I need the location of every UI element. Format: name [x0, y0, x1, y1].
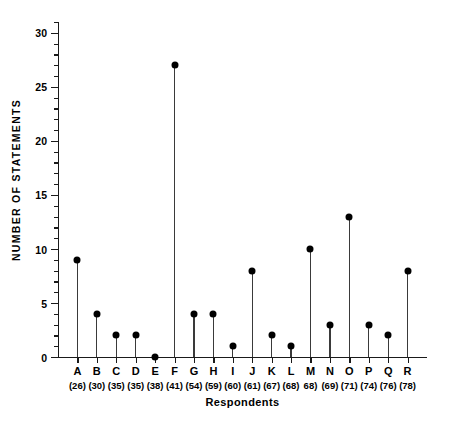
- data-point-marker[interactable]: [210, 310, 217, 317]
- y-tick-minor: [54, 44, 59, 45]
- data-point-marker[interactable]: [268, 332, 275, 339]
- x-category-letter: M: [304, 365, 318, 378]
- y-tick-label: 10: [35, 244, 47, 256]
- y-tick-major: 15: [51, 195, 58, 196]
- y-tick-minor: [54, 314, 59, 315]
- data-point-marker[interactable]: [288, 343, 295, 350]
- x-category-letter: L: [283, 365, 300, 378]
- data-point-marker[interactable]: [229, 343, 236, 350]
- data-point-marker[interactable]: [307, 245, 314, 252]
- y-axis-title: NUMBER OF STATEMENTS: [8, 15, 24, 345]
- x-tick: [116, 357, 117, 363]
- data-point-marker[interactable]: [365, 321, 372, 328]
- y-tick-minor: [54, 335, 59, 336]
- y-tick-minor: [54, 98, 59, 99]
- y-tick-major: 0: [51, 357, 58, 358]
- x-category-id: (54): [185, 379, 202, 392]
- x-category-label: M68): [304, 365, 318, 392]
- x-category-letter: K: [263, 365, 280, 378]
- data-point-marker[interactable]: [249, 267, 256, 274]
- x-category-letter: I: [224, 365, 241, 378]
- data-point-marker[interactable]: [113, 332, 120, 339]
- x-category-id: (30): [88, 379, 105, 392]
- y-tick-minor: [54, 325, 59, 326]
- x-category-label: K(67): [263, 365, 280, 392]
- x-tick: [349, 357, 350, 363]
- y-tick-minor: [54, 76, 59, 77]
- y-tick-minor: [54, 206, 59, 207]
- y-tick-minor: [54, 108, 59, 109]
- data-point-marker[interactable]: [74, 256, 81, 263]
- x-category-letter: B: [88, 365, 105, 378]
- x-tick: [77, 357, 78, 363]
- y-tick-minor: [54, 260, 59, 261]
- x-category-letter: O: [341, 365, 358, 378]
- x-category-label: C(35): [108, 365, 125, 392]
- y-tick-minor: [54, 281, 59, 282]
- stem-line: [96, 314, 97, 357]
- x-category-id: (78): [399, 379, 416, 392]
- y-tick-minor: [54, 184, 59, 185]
- y-tick-minor: [54, 227, 59, 228]
- y-tick-minor: [54, 130, 59, 131]
- y-tick-minor: [54, 292, 59, 293]
- data-point-marker[interactable]: [190, 310, 197, 317]
- x-category-label: D(35): [127, 365, 144, 392]
- x-category-label: N(69): [321, 365, 338, 392]
- y-tick-minor: [54, 119, 59, 120]
- x-category-id: 68): [304, 379, 318, 392]
- y-tick-minor: [54, 162, 59, 163]
- data-point-marker[interactable]: [404, 267, 411, 274]
- x-category-letter: P: [360, 365, 377, 378]
- y-tick-minor: [54, 65, 59, 66]
- x-category-label: H(59): [205, 365, 222, 392]
- stem-line: [252, 271, 253, 357]
- x-category-label: F(41): [166, 365, 183, 392]
- y-tick-minor: [54, 54, 59, 55]
- y-tick-major: 5: [51, 303, 58, 304]
- x-tick: [291, 357, 292, 363]
- x-category-label: A(26): [69, 365, 86, 392]
- x-tick: [330, 357, 331, 363]
- data-point-marker[interactable]: [132, 332, 139, 339]
- data-point-marker[interactable]: [93, 310, 100, 317]
- x-tick: [136, 357, 137, 363]
- stem-line: [368, 325, 369, 357]
- x-category-label: B(30): [88, 365, 105, 392]
- y-tick-label: 15: [35, 189, 47, 201]
- plot-area: 051015202530 A(26)B(30)C(35)D(35)E(38)F(…: [58, 22, 427, 357]
- x-tick: [213, 357, 214, 363]
- x-category-id: (61): [244, 379, 261, 392]
- x-tick: [194, 357, 195, 363]
- x-category-id: (67): [263, 379, 280, 392]
- x-category-label: G(54): [185, 365, 202, 392]
- x-category-letter: A: [69, 365, 86, 378]
- y-tick-label: 30: [35, 27, 47, 39]
- chart-figure: NUMBER OF STATEMENTS 051015202530 A(26)B…: [0, 0, 449, 421]
- x-category-id: (74): [360, 379, 377, 392]
- stem-line: [213, 314, 214, 357]
- x-category-letter: Q: [380, 365, 397, 378]
- x-axis-title: Respondents: [58, 396, 427, 408]
- y-tick-major: 20: [51, 141, 58, 142]
- data-point-marker[interactable]: [152, 354, 159, 361]
- x-category-label: P(74): [360, 365, 377, 392]
- x-tick: [272, 357, 273, 363]
- data-point-marker[interactable]: [326, 321, 333, 328]
- data-point-marker[interactable]: [171, 62, 178, 69]
- data-point-marker[interactable]: [346, 213, 353, 220]
- y-tick-label: 20: [35, 135, 47, 147]
- y-axis-line: [58, 22, 59, 357]
- data-point-marker[interactable]: [385, 332, 392, 339]
- x-tick: [97, 357, 98, 363]
- stem-line: [174, 65, 175, 357]
- stem-line: [407, 271, 408, 357]
- x-category-letter: N: [321, 365, 338, 378]
- y-tick-minor: [54, 152, 59, 153]
- x-category-label: E(38): [147, 365, 164, 392]
- x-tick: [310, 357, 311, 363]
- x-category-id: (35): [108, 379, 125, 392]
- x-category-label: J(61): [244, 365, 261, 392]
- stem-line: [77, 260, 78, 357]
- x-tick: [388, 357, 389, 363]
